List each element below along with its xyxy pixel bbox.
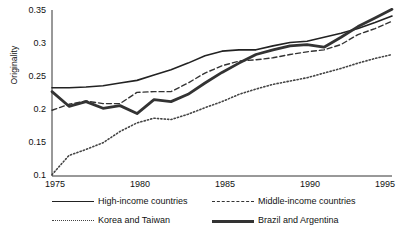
legend-item-middle-income[interactable]: Middle-income countries bbox=[212, 192, 390, 209]
x-tick-label: 1980 bbox=[130, 180, 150, 189]
legend-item-high-income[interactable]: High-income countries bbox=[52, 192, 212, 209]
legend-item-korea-taiwan[interactable]: Korea and Taiwan bbox=[52, 211, 212, 228]
x-tick-label: 1975 bbox=[45, 180, 65, 189]
legend-row: Korea and Taiwan Brazil and Argentina bbox=[52, 211, 390, 228]
legend-row: High-income countries Middle-income coun… bbox=[52, 192, 390, 209]
legend-item-brazil-argentina[interactable]: Brazil and Argentina bbox=[212, 211, 390, 228]
originality-line-chart: Originality 0.35 0.3 0.25 0.2 0.15 0.1 1… bbox=[0, 0, 404, 237]
series-line-middle-income-countries bbox=[52, 21, 392, 110]
x-tick-label: 1995 bbox=[375, 180, 395, 189]
legend-label: Middle-income countries bbox=[258, 196, 356, 206]
legend-line-swatch-dotted-icon bbox=[52, 215, 94, 225]
legend-label: High-income countries bbox=[98, 196, 188, 206]
series-line-brazil-and-argentina bbox=[52, 9, 392, 113]
series-line-high-income-countries bbox=[52, 16, 392, 88]
chart-legend: High-income countries Middle-income coun… bbox=[52, 192, 390, 234]
legend-label: Brazil and Argentina bbox=[258, 215, 339, 225]
legend-line-swatch-solid-thick-icon bbox=[212, 215, 254, 225]
legend-line-swatch-dashed-icon bbox=[212, 196, 254, 206]
series-layer bbox=[52, 9, 392, 174]
legend-line-swatch-solid-thin-icon bbox=[52, 196, 94, 206]
legend-label: Korea and Taiwan bbox=[98, 215, 170, 225]
x-tick-label: 1990 bbox=[300, 180, 320, 189]
x-tick-label: 1985 bbox=[215, 180, 235, 189]
